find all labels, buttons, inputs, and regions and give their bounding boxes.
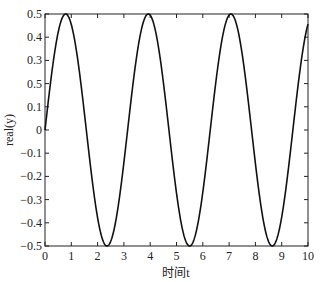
x-tick-label: 2 <box>95 249 101 263</box>
y-tick-label: −0.1 <box>20 146 42 160</box>
y-tick-label: 0.5 <box>27 77 42 91</box>
x-tick-label: 7 <box>226 249 232 263</box>
y-tick-label: −0.5 <box>20 239 42 253</box>
y-tick-label: −0.3 <box>20 193 42 207</box>
y-tick-label: −0.4 <box>20 216 42 230</box>
data-line <box>45 14 308 246</box>
x-tick-label: 8 <box>252 249 258 263</box>
y-tick-label: 0.1 <box>27 100 42 114</box>
y-tick-label: −0.2 <box>20 169 42 183</box>
plot-frame <box>45 14 308 246</box>
x-tick-label: 5 <box>174 249 180 263</box>
y-tick-label: 0.4 <box>27 30 42 44</box>
x-tick-label: 3 <box>121 249 127 263</box>
x-tick-label: 4 <box>147 249 153 263</box>
x-axis-ticks: 012345678910 <box>42 14 314 263</box>
y-tick-label: 0 <box>36 123 42 137</box>
x-tick-label: 6 <box>200 249 206 263</box>
x-tick-label: 9 <box>279 249 285 263</box>
x-tick-label: 0 <box>42 249 48 263</box>
y-axis-label: real(y) <box>2 114 16 146</box>
y-tick-label: 0.5 <box>27 7 42 21</box>
x-tick-label: 10 <box>302 249 314 263</box>
y-axis-ticks: 0.50.40.30.50.10−0.1−0.2−0.3−0.4−0.5 <box>20 7 308 253</box>
chart: 0.50.40.30.50.10−0.1−0.2−0.3−0.4−0.5 012… <box>0 0 320 282</box>
y-tick-label: 0.3 <box>27 53 42 67</box>
x-tick-label: 1 <box>68 249 74 263</box>
x-axis-label: 时间t <box>162 266 190 280</box>
